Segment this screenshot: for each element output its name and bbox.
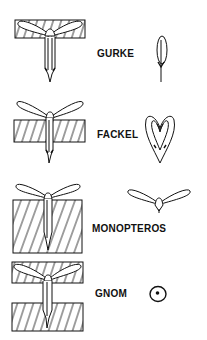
monopteros-right-cotyledon — [50, 184, 80, 198]
monopteros-mutant-right-cotyledon — [161, 190, 190, 204]
fackel-mutant-body — [145, 116, 174, 163]
gnom-mutant-core — [156, 291, 160, 295]
label-monopteros: MONOPTEROS — [92, 223, 166, 234]
gnom-mutant-shape — [150, 287, 166, 302]
label-gurke: GURKE — [97, 48, 134, 59]
fackel-left-cotyledon — [17, 101, 48, 118]
fackel-right-cotyledon — [52, 101, 83, 118]
label-fackel: FACKEL — [97, 129, 138, 140]
label-gnom: GNOM — [95, 288, 127, 299]
monopteros-wildtype-seedling — [13, 184, 82, 253]
fackel-mutant-shape — [145, 116, 174, 163]
gurke-mutant-shape — [157, 36, 167, 82]
monopteros-mutant-shape — [128, 190, 190, 213]
mutant-phenotype-diagram: GURKE FACKEL MONOPTEROS GNOM — [0, 0, 207, 340]
fackel-wildtype-seedling — [14, 101, 85, 163]
gurke-wildtype-seedling — [15, 20, 85, 82]
monopteros-mutant-left-cotyledon — [128, 190, 157, 204]
gurke-mutant-body — [157, 36, 167, 64]
gurke-hypocotyl — [45, 37, 55, 82]
gnom-wildtype-seedling — [12, 262, 83, 331]
monopteros-left-cotyledon — [16, 184, 46, 198]
